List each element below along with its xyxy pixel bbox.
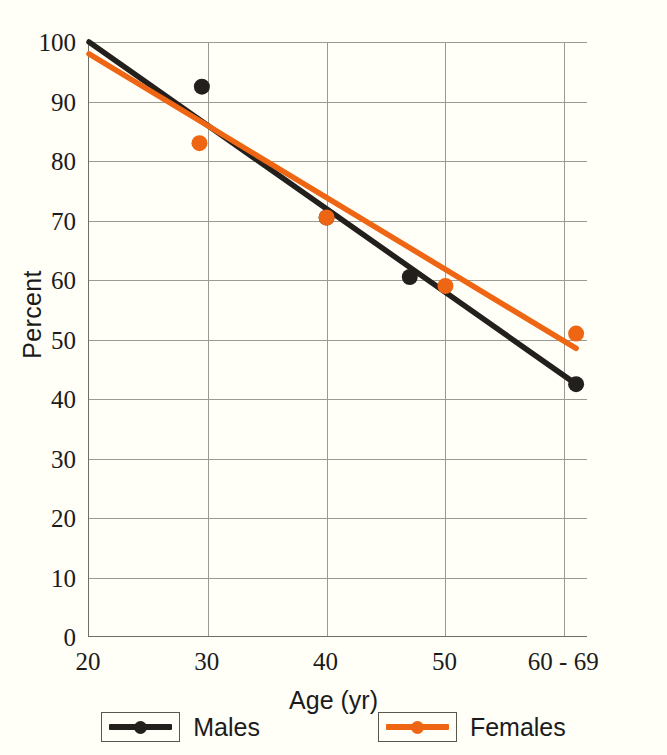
data-point-females [568,326,584,342]
data-point-males [568,376,584,392]
legend-marker-icon [411,721,424,734]
legend-label: Females [470,713,566,742]
y-axis-tick-label: 90 [10,89,76,114]
legend-item-males: Males [101,712,260,742]
x-axis-tick-label: 30 [194,649,219,674]
x-axis-tick-label: 60 - 69 [528,649,599,674]
data-point-females [437,278,453,294]
data-series-layer [89,42,588,637]
plot-area [88,42,587,637]
chart-legend: MalesFemales [0,712,667,742]
trendline-females [89,54,576,349]
y-axis-tick-label: 0 [10,625,76,650]
legend-item-females: Females [378,712,566,742]
y-axis-tick-label: 10 [10,565,76,590]
data-point-males [194,79,210,95]
y-axis-tick-label: 40 [10,387,76,412]
x-axis-tick-label: 40 [313,649,338,674]
y-axis-tick-label: 50 [10,327,76,352]
x-axis-tick-label: 50 [432,649,457,674]
y-axis-tick-label: 20 [10,506,76,531]
y-axis-tick-label: 60 [10,268,76,293]
y-axis-tick-label: 100 [10,30,76,55]
y-axis-tick-label: 70 [10,208,76,233]
data-point-females [319,210,335,226]
legend-swatch-females [378,712,457,742]
legend-label: Males [193,713,260,742]
data-point-males [402,269,418,285]
legend-swatch-males [101,712,180,742]
data-point-females [191,135,207,151]
x-axis-tick-label: 20 [76,649,101,674]
x-axis-title: Age (yr) [0,686,667,715]
legend-marker-icon [134,721,147,734]
chart-container: Percent Age (yr) 0102030405060708090100 … [0,0,667,755]
y-axis-tick-label: 80 [10,149,76,174]
y-axis-tick-label: 30 [10,446,76,471]
